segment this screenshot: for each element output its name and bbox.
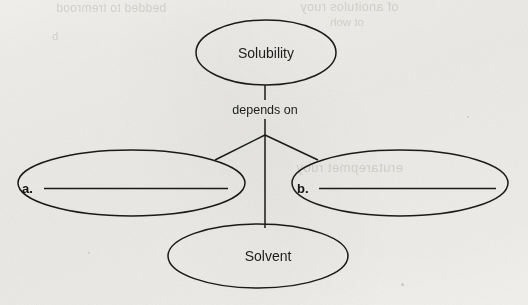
relation-label-depends-on: depends on [232, 103, 297, 117]
connector-junction-to-blank-a [215, 135, 265, 160]
connector-junction-to-blank-b [265, 135, 318, 160]
node-blank-a[interactable]: a. [18, 150, 245, 216]
node-blank-a-letter: a. [22, 181, 33, 196]
node-solubility-label: Solubility [238, 45, 294, 61]
node-solubility[interactable]: Solubility [196, 20, 336, 85]
worksheet-page: bedded to tremrood of anoitulos ruoy ot … [0, 0, 528, 305]
node-solvent-label: Solvent [245, 248, 292, 264]
node-blank-b-letter: b. [297, 181, 309, 196]
concept-map-diagram: Solubility depends on a. b. Solvent [0, 0, 528, 305]
node-blank-b[interactable]: b. [292, 150, 508, 216]
node-blank-a-ellipse [18, 150, 245, 216]
node-solvent[interactable]: Solvent [168, 224, 348, 288]
node-blank-b-ellipse [292, 150, 508, 216]
